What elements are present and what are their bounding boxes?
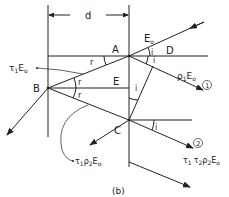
dimension-d-label: d <box>85 10 91 21</box>
angle-r-label-1: r <box>90 58 94 67</box>
angle-arc-i-incident <box>148 48 150 57</box>
incident-E0-label: Eo <box>144 33 154 45</box>
angle-i-label-4: i <box>155 123 157 132</box>
point-B-dot <box>47 87 50 90</box>
reflected-ray-2 <box>129 120 193 148</box>
angle-arc-i-C <box>152 120 154 130</box>
angle-arc-i-reflect <box>146 56 148 64</box>
wavefront-line <box>129 66 153 120</box>
point-D-label: D <box>166 45 174 56</box>
transmitted-ray-B <box>7 88 48 135</box>
point-C-label: C <box>114 125 121 136</box>
marker-1-label: 1 <box>205 82 209 90</box>
internal-reflected-label: τ1ρ2Eo <box>75 157 102 167</box>
reflected-1-label: ρ1Eo <box>177 71 196 82</box>
angle-arc-r-B-upper <box>74 78 76 88</box>
angle-arc-r-A <box>104 56 106 65</box>
angle-i-label-2: i <box>153 56 155 65</box>
leader-tau1rho2E0 <box>61 105 88 161</box>
marker-2-label: 2 <box>196 140 200 148</box>
figure-caption: (b) <box>112 186 125 196</box>
point-A-label: A <box>112 44 119 55</box>
ray-bottom <box>129 162 190 187</box>
point-A-dot <box>128 55 131 58</box>
angle-arc-r-B-lower <box>73 88 76 98</box>
thin-film-interference-diagram: d A D B E C i i r r r i i Eo ρ1Eo 1 τ1Eo… <box>0 0 229 197</box>
angle-r-label-2: r <box>78 78 82 87</box>
angle-arc-i-E <box>129 98 138 100</box>
transmitted-1-label: τ1Eo <box>9 63 28 74</box>
ray-C-down-left <box>90 120 129 145</box>
reflected-2-label: τ1τ2ρ2Eo <box>183 156 220 166</box>
leader-tau1E0 <box>37 68 83 74</box>
angle-i-label-3: i <box>135 84 137 93</box>
point-C-dot <box>128 119 131 122</box>
point-B-label: B <box>33 83 40 94</box>
point-E-label: E <box>113 76 119 87</box>
internal-ray-BC <box>48 88 129 120</box>
angle-r-label-3: r <box>78 91 82 100</box>
